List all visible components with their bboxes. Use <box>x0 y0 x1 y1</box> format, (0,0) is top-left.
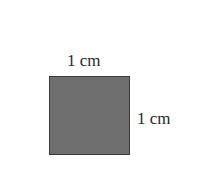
unit-square <box>49 76 130 155</box>
top-side-label: 1 cm <box>67 52 101 69</box>
right-side-label: 1 cm <box>137 110 171 127</box>
